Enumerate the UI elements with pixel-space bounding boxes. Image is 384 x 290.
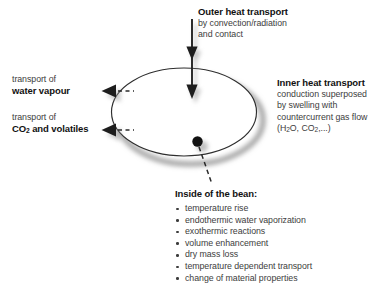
co2-volatiles-transport-label: transport of CO2 and volatiles [12,112,88,138]
bean-interior-items: temperature rise endothermic water vapor… [175,203,312,284]
list-item: temperature dependent transport [175,261,312,273]
inner-heat-line-3: countercurrent gas flow [277,112,367,123]
roasting-heat-transport-diagram: Outer heat transport by convection/radia… [0,0,384,290]
list-item: change of material properties [175,273,312,285]
bean-interior-effects-list: Inside of the bean: temperature rise end… [175,188,312,284]
formula-prefix: (H [277,123,286,133]
list-item: endothermic water vaporization [175,215,312,227]
interior-node-dot [192,136,202,146]
outer-heat-line-2: and contact [198,29,288,40]
outer-heat-line-1: by convection/radiation [198,18,288,29]
inner-heat-gas-formula: (H2O, CO2,...) [277,123,367,136]
list-item: dry mass loss [175,249,312,261]
outer-heat-heading: Outer heat transport [198,6,288,18]
water-vapour-line-2: water vapour [12,85,70,97]
formula-mid: O, CO [290,123,315,133]
formula-suffix: ,...) [318,123,330,133]
bean-ellipse [112,68,257,156]
inner-heat-line-2: by swelling with [277,100,367,111]
list-item: temperature rise [175,203,312,215]
inner-heat-transport-label: Inner heat transport conduction superpos… [277,77,367,136]
outer-heat-transport-label: Outer heat transport by convection/radia… [198,6,288,41]
co2-label-suffix: and volatiles [30,123,89,134]
inner-heat-heading: Inner heat transport [277,77,367,89]
water-vapour-line-1: transport of [12,74,70,85]
co2-label-prefix: CO [12,123,26,134]
co2-volatiles-line-1: transport of [12,112,88,123]
co2-volatiles-line-2: CO2 and volatiles [12,123,88,137]
inner-heat-line-1: conduction superposed [277,89,367,100]
bean-interior-heading: Inside of the bean: [175,188,312,200]
list-item: exothermic reactions [175,226,312,238]
water-vapour-transport-label: transport of water vapour [12,74,70,97]
list-item: volume enhancement [175,238,312,250]
